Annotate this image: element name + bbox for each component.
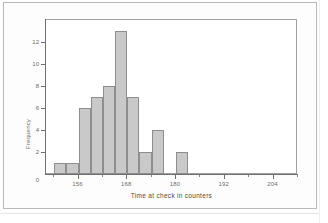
x-axis-title: Time at check in counters — [45, 192, 298, 199]
histogram-bar — [152, 130, 164, 174]
x-axis-tick — [126, 175, 127, 179]
x-axis-tick — [78, 175, 79, 179]
y-axis-tick — [41, 42, 45, 43]
x-tick-label: 204 — [267, 181, 278, 187]
x-axis-tick — [224, 175, 225, 179]
x-axis-line — [45, 174, 298, 175]
y-tick-label-zero: 0 — [28, 177, 39, 183]
y-tick-label: 10 — [28, 61, 39, 67]
y-axis-line — [45, 19, 46, 175]
y-axis-title: Frequency — [25, 91, 31, 177]
x-axis-minor-tick — [297, 175, 298, 177]
histogram-bar — [103, 86, 115, 174]
y-axis-tick — [41, 64, 45, 65]
histogram-bar — [91, 97, 103, 174]
y-axis-tick — [41, 130, 45, 131]
x-axis-minor-tick — [151, 175, 152, 177]
histogram-bar — [79, 108, 91, 174]
y-axis-title-wrap: Frequency — [14, 55, 24, 125]
x-axis-tick — [175, 175, 176, 179]
x-axis-minor-tick — [248, 175, 249, 177]
x-tick-label: 180 — [170, 181, 181, 187]
y-axis-tick — [41, 86, 45, 87]
x-axis-minor-tick — [102, 175, 103, 177]
x-tick-label: 156 — [72, 181, 83, 187]
y-axis-tick — [41, 108, 45, 109]
y-tick-label: 8 — [28, 83, 39, 89]
x-tick-label: 168 — [121, 181, 132, 187]
x-axis-minor-tick — [53, 175, 54, 177]
page-edge-right — [319, 0, 328, 223]
histogram-bar — [127, 97, 139, 174]
x-tick-label: 192 — [219, 181, 230, 187]
page-edge-bottom — [0, 213, 328, 223]
histogram-bar — [66, 163, 78, 174]
histogram-bar — [176, 152, 188, 174]
histogram-bar — [54, 163, 66, 174]
histogram-bar — [115, 31, 127, 174]
x-axis-minor-tick — [199, 175, 200, 177]
x-axis-tick — [273, 175, 274, 179]
y-axis-tick — [41, 152, 45, 153]
plot-area — [46, 20, 296, 174]
figure-page: 24681012156168180192204 0 Frequency Time… — [0, 0, 328, 223]
y-tick-label: 12 — [28, 39, 39, 45]
histogram-bar — [139, 152, 151, 174]
